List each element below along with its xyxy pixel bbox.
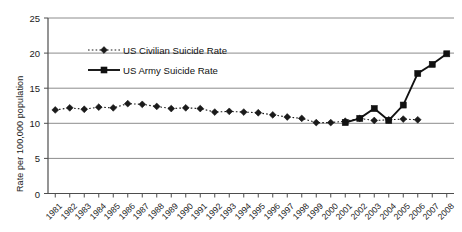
x-axis-tick-marks — [55, 194, 447, 198]
legend-label-army: US Army Suicide Rate — [123, 65, 218, 76]
gridlines — [44, 18, 454, 194]
legend-label-civilian: US Civilian Suicide Rate — [123, 45, 227, 56]
legend-marker-icons — [88, 47, 120, 73]
series-us-civilian-suicide-rate — [52, 100, 421, 126]
suicide-rate-line-chart: Rate per 100,000 population 0510152025 1… — [0, 0, 462, 232]
plot-area — [0, 0, 462, 232]
axis-lines — [48, 18, 454, 194]
